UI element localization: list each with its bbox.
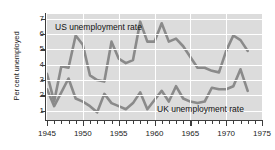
- x-tick-minor: [241, 121, 242, 124]
- x-tick-minor: [255, 121, 256, 124]
- x-tick-minor: [112, 121, 113, 124]
- us-series-label: US unemployment rate: [55, 22, 142, 32]
- x-tick-major: [47, 121, 48, 126]
- uk-series-label: UK unemployment rate: [157, 104, 244, 114]
- x-tick-minor: [140, 121, 141, 124]
- x-tick-minor: [104, 121, 105, 124]
- x-tick-minor: [126, 121, 127, 124]
- x-tick-minor: [90, 121, 91, 124]
- y-axis-tick-labels: 1234567: [24, 0, 44, 150]
- y-axis-label: Per cent unemployed: [10, 6, 24, 126]
- x-tick-label: 1975: [247, 129, 275, 138]
- x-tick-label: 1955: [104, 129, 134, 138]
- y-tick-mark: [41, 34, 45, 35]
- x-tick-minor: [162, 121, 163, 124]
- x-tick-minor: [248, 121, 249, 124]
- y-axis-spine: [45, 13, 46, 121]
- x-tick-minor: [183, 121, 184, 124]
- x-tick-minor: [233, 121, 234, 124]
- x-tick-minor: [169, 121, 170, 124]
- unemployment-rate-chart: Per cent unemployed 1234567 194519501955…: [0, 0, 275, 150]
- x-tick-minor: [76, 121, 77, 124]
- y-tick-mark: [41, 19, 45, 20]
- x-tick-minor: [198, 121, 199, 124]
- x-tick-minor: [133, 121, 134, 124]
- x-tick-minor: [147, 121, 148, 124]
- x-tick-minor: [219, 121, 220, 124]
- x-tick-minor: [205, 121, 206, 124]
- x-tick-minor: [61, 121, 62, 124]
- y-tick-mark: [41, 65, 45, 66]
- x-tick-label: 1945: [32, 129, 62, 138]
- x-tick-major: [190, 121, 191, 126]
- y-tick-mark: [41, 95, 45, 96]
- y-tick-mark: [41, 111, 45, 112]
- x-tick-label: 1960: [140, 129, 170, 138]
- x-tick-label: 1950: [68, 129, 98, 138]
- gridline-vertical: [155, 14, 156, 120]
- x-tick-major: [155, 121, 156, 126]
- x-tick-minor: [97, 121, 98, 124]
- x-tick-minor: [54, 121, 55, 124]
- y-tick-mark: [41, 49, 45, 50]
- x-tick-minor: [212, 121, 213, 124]
- x-tick-major: [262, 121, 263, 126]
- x-tick-minor: [69, 121, 70, 124]
- x-tick-label: 1965: [175, 129, 205, 138]
- x-tick-major: [226, 121, 227, 126]
- x-tick-minor: [176, 121, 177, 124]
- x-tick-label: 1970: [211, 129, 241, 138]
- x-tick-major: [119, 121, 120, 126]
- x-tick-major: [83, 121, 84, 126]
- y-tick-mark: [41, 80, 45, 81]
